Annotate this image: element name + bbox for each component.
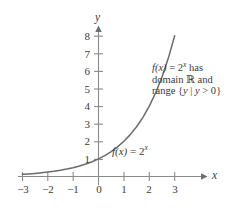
- y-tick-label-7: 7: [76, 48, 90, 60]
- exponential-function-figure: −3 −2 −1 0 1 2 3 1 2 3 4 5 6 7 8 x y f(x…: [0, 0, 241, 213]
- y-tick-label-3: 3: [76, 118, 90, 130]
- x-axis-label: x: [212, 169, 217, 181]
- x-tick-label--3: −3: [14, 183, 32, 195]
- curve-label-equals: = 2: [127, 145, 144, 157]
- x-tick-label-3: 3: [166, 183, 184, 195]
- y-axis-label: y: [95, 11, 100, 23]
- x-tick-label--2: −2: [39, 183, 57, 195]
- annotation-range-text: range: [152, 85, 178, 96]
- annotation-line-2: domain ℝ and: [152, 74, 238, 86]
- annotation-and-text: and: [195, 74, 213, 85]
- curve-label-exponent: x: [144, 143, 147, 152]
- y-tick-label-2: 2: [76, 135, 90, 147]
- range-relation: > 0: [200, 85, 216, 96]
- annotation-domain-text: domain: [152, 74, 186, 85]
- annotation-block: f(x) = 2x has domain ℝ and range {y | y …: [152, 62, 238, 97]
- y-tick-label-6: 6: [76, 65, 90, 77]
- set-divider-bar: |: [188, 85, 195, 96]
- curve-label-function: f(x): [112, 145, 127, 157]
- real-numbers-symbol: ℝ: [186, 73, 195, 85]
- y-tick-label-4: 4: [76, 100, 90, 112]
- annotation-line-1: f(x) = 2x has: [152, 62, 238, 74]
- y-tick-label-1: 1: [76, 153, 90, 165]
- y-tick-label-8: 8: [76, 30, 90, 42]
- graph-canvas: [0, 0, 241, 213]
- annotation-has: has: [186, 62, 203, 73]
- annotation-function: f(x): [152, 62, 167, 73]
- x-tick-label--1: −1: [64, 183, 82, 195]
- y-tick-label-5: 5: [76, 83, 90, 95]
- annotation-line-3: range {y | y > 0}: [152, 85, 238, 97]
- x-tick-label-1: 1: [115, 183, 133, 195]
- x-tick-label-2: 2: [140, 183, 158, 195]
- annotation-equals: = 2: [167, 62, 183, 73]
- x-tick-label-0: 0: [90, 183, 108, 195]
- curve-equation-label: f(x) = 2x: [112, 145, 148, 157]
- set-close-brace: }: [216, 85, 221, 96]
